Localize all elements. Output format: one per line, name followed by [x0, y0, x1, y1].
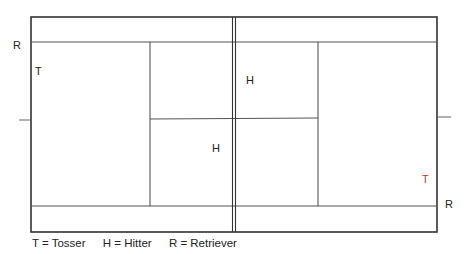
player-retriever-left: R: [13, 40, 21, 51]
legend: T = Tosser H = Hitter R = Retriever: [32, 238, 251, 250]
center-service-line: [150, 118, 318, 119]
player-tosser-left: T: [35, 66, 42, 77]
court-outline: [31, 17, 437, 232]
player-tosser-right: T: [422, 174, 429, 185]
player-hitter-left: H: [212, 143, 220, 154]
player-retriever-right: R: [445, 199, 453, 210]
legend-retriever: R = Retriever: [169, 237, 237, 249]
tennis-court: [0, 0, 472, 254]
player-hitter-right: H: [246, 75, 254, 86]
legend-tosser: T = Tosser: [32, 237, 86, 249]
legend-hitter: H = Hitter: [103, 237, 152, 249]
